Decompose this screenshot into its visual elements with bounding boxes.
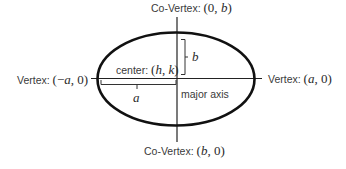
center-label: center: (h, k) [116,62,179,77]
left-vertex-label: Vertex: (−a, 0) [17,72,88,87]
right-vertex-label: Vertex: (a, 0) [268,71,332,86]
semi-minor-bracket [181,40,188,75]
bottom-covertex-label: Co-Vertex: (b, 0) [144,143,225,158]
ellipse-diagram: b a center: (h, k) major axis Co-Vertex:… [0,0,346,169]
semi-major-bracket [101,80,176,89]
top-covertex-label: Co-Vertex: (0, b) [151,0,232,15]
semi-major-label: a [133,90,140,105]
semi-minor-label: b [192,49,199,64]
major-axis-label: major axis [181,88,229,100]
